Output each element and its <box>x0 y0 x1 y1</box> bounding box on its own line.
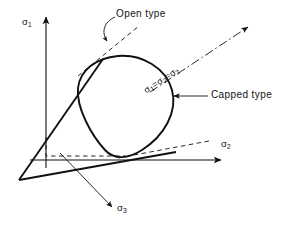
sigma-2-subscript: 2 <box>227 143 231 150</box>
diagram-canvas <box>0 0 288 230</box>
sigma-2-axis-label: σ2 <box>221 139 231 150</box>
stress-space-diagram: σ1 σ2 σ3 σ1=σ2=σ3 Open type Capped type <box>0 0 288 230</box>
capped-type-label: Capped type <box>211 90 272 100</box>
capped-yield-surface-curve <box>78 56 174 157</box>
sigma-3-axis-line <box>60 153 112 207</box>
cone-edge-upper-left <box>19 59 103 180</box>
sigma-1-axis-label: σ1 <box>22 17 32 28</box>
sigma-3-axis-label: σ3 <box>117 203 127 214</box>
construction-dashed-corner <box>46 137 126 156</box>
open-type-leader-line <box>104 17 115 41</box>
sigma-3-subscript: 3 <box>123 207 127 214</box>
sigma-1-subscript: 1 <box>28 21 32 28</box>
open-type-label: Open type <box>116 9 166 19</box>
cone-edge-lower-right <box>19 152 176 180</box>
